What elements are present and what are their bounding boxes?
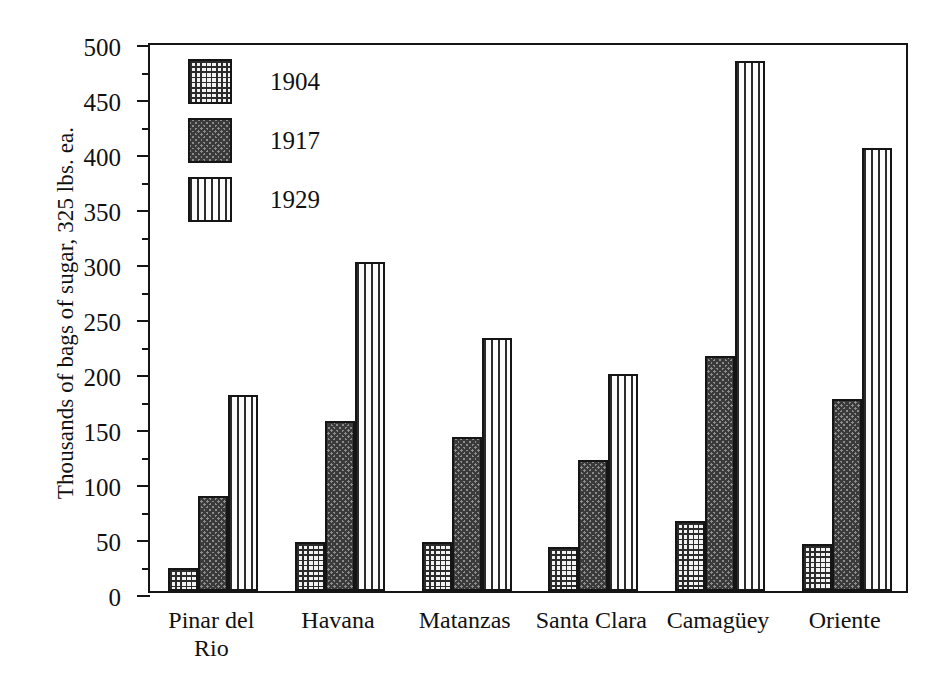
legend-item-1904: 1904 xyxy=(188,59,320,104)
y-tick-label: 350 xyxy=(84,200,122,225)
bar-1917-oriente xyxy=(832,399,862,592)
x-category-label-pinar-del-rio: Pinar del Rio xyxy=(148,606,275,662)
y-tick-label: 250 xyxy=(84,310,122,335)
y-tick-label: 400 xyxy=(84,145,122,170)
y-tick-label: 500 xyxy=(84,35,122,60)
y-tick-label: 450 xyxy=(84,90,122,115)
legend-item-1917: 1917 xyxy=(188,118,320,163)
y-tick-label: 200 xyxy=(84,365,122,390)
y-tick-minor xyxy=(142,568,150,570)
y-tick-major: 250 xyxy=(137,320,150,322)
bar-1917-camagüey xyxy=(705,356,735,591)
y-tick-minor xyxy=(142,238,150,240)
bar-1904-camagüey xyxy=(675,521,705,591)
y-tick-label: 100 xyxy=(84,475,122,500)
y-tick-minor xyxy=(142,128,150,130)
y-tick-major: 150 xyxy=(137,430,150,432)
x-category-label-matanzas: Matanzas xyxy=(401,606,528,634)
y-tick-major: 350 xyxy=(137,210,150,212)
bar-1904-oriente xyxy=(802,544,832,591)
y-tick-major: 200 xyxy=(137,375,150,377)
y-tick-major: 50 xyxy=(137,540,150,542)
y-tick-minor xyxy=(142,458,150,460)
bar-1929-oriente xyxy=(862,148,892,591)
x-category-label-havana: Havana xyxy=(275,606,402,634)
y-tick-label: 50 xyxy=(96,530,121,555)
y-tick-label: 300 xyxy=(84,255,122,280)
y-tick-label: 0 xyxy=(109,585,122,610)
legend-label-1904: 1904 xyxy=(270,69,320,94)
y-tick-minor xyxy=(142,293,150,295)
bar-1929-matanzas xyxy=(482,338,512,591)
legend-swatch-1917 xyxy=(188,118,232,163)
x-category-label-santa-clara: Santa Clara xyxy=(528,606,655,634)
bar-1929-santa-clara xyxy=(608,374,638,591)
y-tick-minor xyxy=(142,183,150,185)
y-tick-major: 400 xyxy=(137,155,150,157)
legend-label-1929: 1929 xyxy=(270,187,320,212)
bar-1917-havana xyxy=(325,421,355,592)
y-tick-minor xyxy=(142,348,150,350)
bar-1929-pinar-del-rio xyxy=(228,395,258,591)
y-axis-title: Thousands of bags of sugar, 325 lbs. ea. xyxy=(53,63,79,563)
bar-1904-matanzas xyxy=(422,542,452,592)
y-tick-minor xyxy=(142,513,150,515)
bar-1904-havana xyxy=(295,542,325,592)
bar-1917-matanzas xyxy=(452,437,482,591)
bar-chart-figure: Thousands of bags of sugar, 325 lbs. ea.… xyxy=(0,0,938,698)
bar-1917-santa-clara xyxy=(578,460,608,591)
y-tick-label: 150 xyxy=(84,420,122,445)
y-tick-major: 500 xyxy=(137,45,150,47)
y-tick-major: 300 xyxy=(137,265,150,267)
y-tick-major: 450 xyxy=(137,100,150,102)
bar-1929-camagüey xyxy=(735,61,765,591)
x-category-label-camagüey: Camagüey xyxy=(655,606,782,634)
y-tick-major: 0 xyxy=(137,595,150,597)
bar-1929-havana xyxy=(355,262,385,591)
y-tick-minor xyxy=(142,73,150,75)
y-tick-minor xyxy=(142,403,150,405)
legend-item-1929: 1929 xyxy=(188,177,320,222)
legend-label-1917: 1917 xyxy=(270,128,320,153)
x-category-label-oriente: Oriente xyxy=(781,606,908,634)
legend-swatch-1929 xyxy=(188,177,232,222)
y-tick-major: 100 xyxy=(137,485,150,487)
bar-1904-santa-clara xyxy=(548,547,578,591)
bar-1904-pinar-del-rio xyxy=(168,568,198,591)
legend-swatch-1904 xyxy=(188,59,232,104)
bar-1917-pinar-del-rio xyxy=(198,496,228,591)
